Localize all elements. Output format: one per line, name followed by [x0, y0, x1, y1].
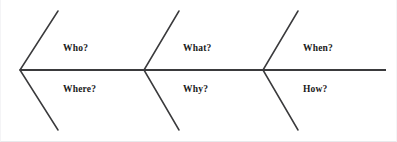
branch-label-where: Where?: [63, 85, 96, 95]
fishbone-diagram-canvas: Who? Where? What? Why? When? How?: [0, 0, 397, 142]
branch-label-who: Who?: [63, 44, 88, 54]
branch-3-lower-bone: [263, 70, 298, 130]
branch-label-how: How?: [303, 85, 328, 95]
branch-2-lower-bone: [144, 70, 179, 130]
branch-3-upper-bone: [263, 11, 298, 70]
branch-label-why: Why?: [183, 85, 208, 95]
branch-label-when: When?: [303, 44, 333, 54]
branch-1-lower-bone: [20, 70, 58, 130]
branch-2-upper-bone: [144, 11, 179, 70]
fishbone-diagram-svg: [1, 0, 397, 142]
branch-1-upper-bone: [20, 11, 58, 70]
branch-label-what: What?: [183, 44, 211, 54]
